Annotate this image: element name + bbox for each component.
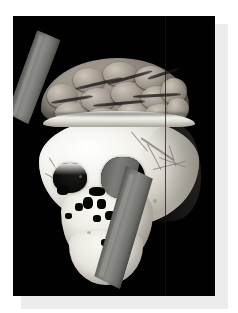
bone-texture-speck [153, 199, 157, 203]
sinus-void [57, 185, 69, 195]
nasal-aperture-lower [83, 197, 93, 209]
orbit-left-superior-margin [53, 163, 87, 175]
render-stage [13, 16, 215, 296]
sinus-void [93, 215, 101, 222]
calvaria-rim-shadow [49, 112, 189, 116]
nasal-aperture [89, 187, 105, 196]
ethmoid-void [97, 199, 106, 209]
figure-page [0, 0, 238, 313]
rod-highlight [13, 35, 43, 116]
render-seam [165, 16, 166, 296]
bone-texture-speck [79, 175, 82, 178]
volume-render-viewport [13, 16, 215, 296]
sinus-void [75, 203, 83, 211]
sinus-void [65, 213, 72, 219]
bone-texture-speck [87, 231, 91, 234]
